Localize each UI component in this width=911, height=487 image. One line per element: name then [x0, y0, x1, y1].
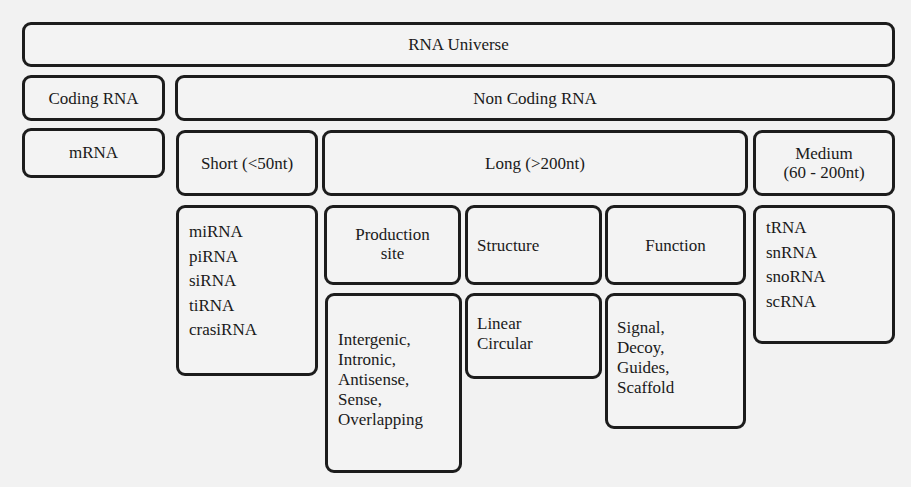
structure-box: Structure [465, 205, 602, 285]
list-item: Linear [477, 314, 599, 334]
list-item: siRNA [189, 269, 315, 294]
non-coding-rna-label: Non Coding RNA [473, 89, 597, 108]
production-site-box: Production site [324, 205, 461, 285]
function-box: Function [605, 205, 746, 285]
list-item: piRNA [189, 245, 315, 270]
list-item: snRNA [766, 241, 892, 266]
short-rna-label: Short (<50nt) [201, 154, 293, 173]
long-rna-box: Long (>200nt) [322, 130, 748, 196]
list-item: tiRNA [189, 294, 315, 319]
long-rna-label: Long (>200nt) [485, 154, 585, 173]
list-item: Sense, [338, 390, 459, 410]
list-item: tRNA [766, 216, 892, 241]
list-item: Intronic, [338, 350, 459, 370]
list-item: miRNA [189, 220, 315, 245]
list-item: Circular [477, 334, 599, 354]
list-item: Guides, [617, 358, 743, 378]
list-item: Decoy, [617, 338, 743, 358]
production-site-label-line2: site [381, 244, 405, 263]
coding-rna-box: Coding RNA [22, 75, 165, 121]
rna-universe-box: RNA Universe [22, 22, 895, 67]
structure-label: Structure [477, 236, 539, 255]
list-item: Antisense, [338, 370, 459, 390]
non-coding-rna-box: Non Coding RNA [175, 75, 895, 121]
medium-rna-list: tRNA snRNA snoRNA scRNA [753, 205, 895, 344]
production-site-label-line1: Production [355, 225, 430, 244]
coding-rna-label: Coding RNA [48, 89, 138, 108]
function-label: Function [645, 236, 705, 255]
medium-rna-label-line2: (60 - 200nt) [783, 163, 864, 182]
short-rna-list: miRNA piRNA siRNA tiRNA crasiRNA [176, 205, 318, 376]
list-item: crasiRNA [189, 318, 315, 343]
short-rna-box: Short (<50nt) [176, 130, 318, 196]
rna-universe-label: RNA Universe [408, 35, 509, 54]
list-item: Scaffold [617, 378, 743, 398]
mrna-box: mRNA [22, 128, 165, 178]
function-list: Signal, Decoy, Guides, Scaffold [605, 293, 746, 429]
medium-rna-box: Medium (60 - 200nt) [753, 130, 895, 196]
list-item: snoRNA [766, 265, 892, 290]
list-item: Overlapping [338, 410, 459, 430]
mrna-label: mRNA [69, 143, 118, 162]
structure-list: Linear Circular [465, 293, 602, 379]
medium-rna-label-line1: Medium [795, 144, 853, 163]
list-item: Intergenic, [338, 330, 459, 350]
list-item: Signal, [617, 318, 743, 338]
list-item: scRNA [766, 290, 892, 315]
production-site-list: Intergenic, Intronic, Antisense, Sense, … [325, 293, 462, 473]
